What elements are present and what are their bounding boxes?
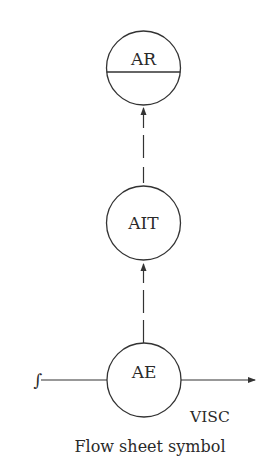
node-ae: AE — [107, 343, 181, 417]
stream-label-visc: VISC — [189, 408, 230, 426]
node-ar: AR — [107, 31, 181, 105]
flow-sheet-diagram: AR AIT AE ∫ VISC Flow sheet symbol — [0, 0, 266, 460]
node-ait: AIT — [107, 186, 181, 260]
ar-label: AR — [130, 49, 157, 69]
ait-label: AIT — [127, 213, 159, 233]
diagram-caption: Flow sheet symbol — [74, 437, 225, 456]
ae-label: AE — [131, 362, 157, 382]
